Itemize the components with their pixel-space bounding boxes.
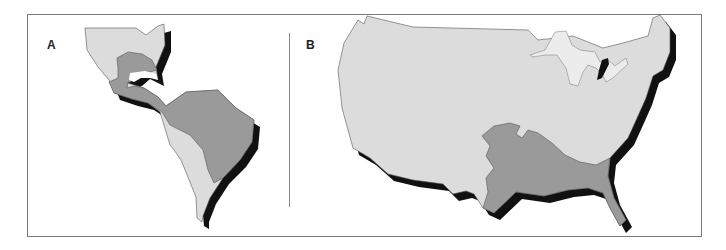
map-united-states — [338, 15, 676, 233]
map-americas — [85, 24, 260, 229]
americas-dark — [109, 52, 254, 183]
maps-svg — [0, 0, 726, 250]
